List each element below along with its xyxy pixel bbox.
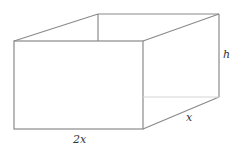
bottom-right-edge bbox=[143, 97, 219, 129]
top-left-edge bbox=[14, 14, 98, 41]
width-label: 2x bbox=[73, 134, 86, 145]
top-right-edge bbox=[143, 14, 219, 41]
box-diagram bbox=[0, 0, 240, 151]
depth-label: x bbox=[186, 112, 192, 123]
front-face bbox=[14, 41, 143, 129]
height-label: h bbox=[223, 49, 230, 60]
